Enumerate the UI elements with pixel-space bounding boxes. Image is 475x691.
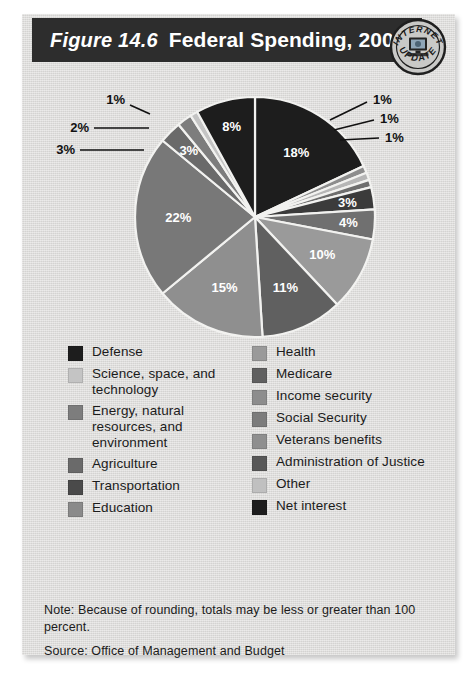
legend-item[interactable]: Medicare — [252, 366, 455, 383]
figure-number: Figure 14.6 — [50, 29, 158, 52]
pie-slice-value-label: 3% — [179, 143, 198, 158]
figure-title-bar: Figure 14.6 Federal Spending, 2003 — [32, 18, 422, 62]
legend-swatch — [252, 478, 267, 493]
legend-item[interactable]: Other — [252, 476, 455, 493]
internet-update-badge-icon: INTERNET UPDATE — [387, 16, 449, 78]
legend-item-label: Education — [92, 500, 153, 516]
legend-column-left: DefenseScience, space, and technologyEne… — [22, 344, 236, 584]
pie-slice-value-label: 15% — [211, 280, 237, 295]
pie-chart-svg: 18%3%4%10%11%15%22%3%8% 1% 2% 3% 1% 1% 1… — [22, 62, 455, 347]
legend-swatch — [252, 346, 267, 361]
legend-item-label: Medicare — [276, 366, 332, 382]
pie-slice-value-label: 10% — [309, 247, 335, 262]
legend-swatch — [252, 456, 267, 471]
legend-item-label: Income security — [276, 388, 372, 404]
callout-leaders-left — [80, 105, 150, 150]
callout-right-1: 1% — [373, 92, 392, 107]
legend-item-label: Transportation — [92, 478, 180, 494]
leader-right-1 — [330, 102, 367, 120]
callout-right-2: 1% — [380, 111, 399, 126]
callout-left-3: 3% — [56, 142, 75, 157]
leader-right-2 — [334, 120, 374, 130]
figure-card: Figure 14.6 Federal Spending, 2003 INTER… — [22, 14, 455, 655]
legend-swatch — [68, 405, 83, 420]
legend-item-label: Health — [276, 344, 316, 360]
legend-swatch — [252, 434, 267, 449]
legend-item-label: Agriculture — [92, 456, 158, 472]
legend-item-label: Defense — [92, 344, 143, 360]
legend-item[interactable]: Agriculture — [68, 456, 236, 473]
legend-item[interactable]: Energy, natural resources, and environme… — [68, 403, 236, 451]
legend-item-label: Net interest — [276, 498, 346, 514]
pie-slice-value-label: 3% — [338, 195, 357, 210]
pie-chart: 18%3%4%10%11%15%22%3%8% 1% 2% 3% 1% 1% 1… — [22, 62, 455, 347]
pie-slice-value-label: 11% — [273, 280, 299, 295]
legend-item-label: Science, space, and technology — [92, 366, 236, 398]
callout-right-3: 1% — [385, 130, 404, 145]
legend-item[interactable]: Defense — [68, 344, 236, 361]
footnote-source: Source: Office of Management and Budget — [44, 643, 444, 660]
legend-column-right: HealthMedicareIncome securitySocial Secu… — [236, 344, 455, 584]
legend-swatch — [68, 480, 83, 495]
legend-item[interactable]: Science, space, and technology — [68, 366, 236, 398]
pie-slice-value-label: 4% — [339, 215, 358, 230]
legend-item[interactable]: Education — [68, 500, 236, 517]
callout-left-1: 1% — [106, 92, 125, 107]
legend-item[interactable]: Net interest — [252, 498, 455, 515]
legend-swatch — [252, 412, 267, 427]
legend-swatch — [252, 368, 267, 383]
legend-item[interactable]: Transportation — [68, 478, 236, 495]
legend-item-label: Veterans benefits — [276, 432, 382, 448]
legend-swatch — [68, 346, 83, 361]
legend-item-label: Other — [276, 476, 310, 492]
legend-item[interactable]: Social Security — [252, 410, 455, 427]
legend-item-label: Administration of Justice — [276, 454, 425, 470]
leader-left-1 — [130, 105, 150, 114]
pie-slice-value-label: 22% — [165, 210, 191, 225]
chart-legend: DefenseScience, space, and technologyEne… — [22, 344, 455, 584]
legend-item[interactable]: Income security — [252, 388, 455, 405]
legend-swatch — [68, 458, 83, 473]
legend-swatch — [68, 502, 83, 517]
internet-update-badge[interactable]: INTERNET UPDATE — [387, 16, 449, 78]
figure-footnote: Note: Because of rounding, totals may be… — [44, 602, 444, 660]
callout-left-2: 2% — [70, 120, 89, 135]
legend-swatch — [68, 368, 83, 383]
legend-item-label: Social Security — [276, 410, 367, 426]
legend-item[interactable]: Health — [252, 344, 455, 361]
legend-item[interactable]: Administration of Justice — [252, 454, 455, 471]
pie-slice-value-label: 8% — [222, 119, 241, 134]
legend-item-label: Energy, natural resources, and environme… — [92, 403, 236, 451]
footnote-note: Note: Because of rounding, totals may be… — [44, 602, 444, 636]
legend-item[interactable]: Veterans benefits — [252, 432, 455, 449]
legend-swatch — [252, 390, 267, 405]
figure-title: Federal Spending, 2003 — [169, 28, 406, 52]
legend-swatch — [252, 500, 267, 515]
pie-slice-value-label: 18% — [283, 145, 309, 160]
